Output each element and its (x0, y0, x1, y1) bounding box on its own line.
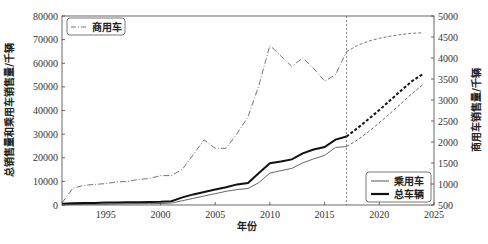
left-y-tick-label: 80000 (33, 11, 58, 22)
legend-commercial-label: 商用车 (92, 21, 122, 33)
x-axis-label: 年份 (237, 220, 258, 232)
left-y-axis-label: 总销售量和乘用车销售量/千辆 (3, 43, 15, 177)
right-y-axis-label: 商用车销售量/千辆 (470, 68, 482, 152)
vehicle-sales-chart: 1995200020052010201520202025010000200003… (0, 0, 488, 244)
legend-passenger-label: 乘用车 (393, 175, 424, 187)
right-y-tick-label: 3500 (438, 74, 458, 85)
left-y-tick-label: 10000 (33, 176, 58, 187)
right-y-tick-label: 500 (438, 200, 453, 211)
x-tick-label: 2010 (260, 209, 280, 220)
right-y-tick-label: 4500 (438, 32, 458, 43)
x-tick-label: 2000 (150, 209, 170, 220)
series-line (62, 137, 347, 204)
x-tick-label: 2025 (424, 209, 444, 220)
legend-passenger-total: 乘用车 总车辆 (366, 172, 431, 202)
right-y-tick-label: 5000 (438, 11, 458, 22)
right-y-tick-label: 1000 (438, 179, 458, 190)
right-y-tick-label: 4000 (438, 53, 458, 64)
right-y-tick-label: 2000 (438, 137, 458, 148)
left-y-tick-label: 60000 (33, 58, 58, 69)
x-tick-label: 1995 (96, 209, 116, 220)
left-y-tick-label: 0 (53, 200, 58, 211)
series-line (62, 147, 347, 205)
legend-commercial: 商用车 (67, 18, 125, 35)
left-y-tick-label: 30000 (33, 129, 58, 140)
left-y-tick-label: 50000 (33, 81, 58, 92)
right-y-tick-label: 1500 (438, 158, 458, 169)
forecast-line (347, 85, 424, 147)
right-y-tick-label: 2500 (438, 116, 458, 127)
right-y-tick-label: 3000 (438, 95, 458, 106)
x-tick-label: 2005 (205, 209, 225, 220)
legend-total-label: 总车辆 (394, 188, 424, 200)
forecast-line (347, 33, 424, 52)
left-y-tick-label: 70000 (33, 34, 58, 45)
x-tick-label: 2020 (369, 209, 389, 220)
left-y-tick-label: 40000 (33, 105, 58, 116)
left-y-tick-label: 20000 (33, 152, 58, 163)
forecast-line (347, 74, 424, 137)
series-line (62, 45, 347, 203)
x-tick-label: 2015 (315, 209, 335, 220)
